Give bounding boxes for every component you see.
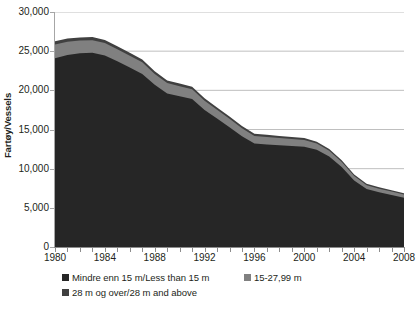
x-axis-tick-mark [167, 248, 168, 252]
legend-item-label: 28 m og over/28 m and above [72, 287, 197, 298]
legend-swatch-icon [62, 274, 69, 281]
x-axis-tick-mark [254, 248, 255, 252]
x-axis-tick-mark [329, 248, 330, 252]
y-axis-tick-label: 15,000 [3, 125, 49, 135]
y-axis-tick-mark [50, 169, 54, 170]
x-axis-tick-mark [80, 248, 81, 252]
x-axis-tick-mark [267, 248, 268, 252]
legend-item[interactable]: 28 m og over/28 m and above [62, 287, 197, 298]
x-axis-tick-mark [130, 248, 131, 252]
y-axis-tick-mark [50, 208, 54, 209]
x-axis-tick-mark [392, 248, 393, 252]
x-axis-tick-mark [142, 248, 143, 252]
x-axis-tick-mark [279, 248, 280, 252]
x-axis-tick-mark [317, 248, 318, 252]
legend-swatch-icon [244, 274, 251, 281]
x-axis-tick-label: 1984 [85, 252, 125, 264]
x-axis-tick-mark [230, 248, 231, 252]
x-axis-tick-mark [292, 248, 293, 252]
legend-swatch-icon [62, 289, 69, 296]
plot-area [55, 12, 404, 247]
x-axis-tick-mark [367, 248, 368, 252]
y-axis-tick-mark [50, 51, 54, 52]
x-axis-tick-label: 1992 [185, 252, 225, 264]
y-axis-tick-mark [50, 90, 54, 91]
x-axis-tick-mark [354, 248, 355, 252]
y-axis-tick-label: 10,000 [3, 164, 49, 174]
x-axis-tick-mark [180, 248, 181, 252]
x-axis-tick-mark [342, 248, 343, 252]
x-axis-tick-mark [379, 248, 380, 252]
chart-legend: Mindre enn 15 m/Less than 15 m15-27,99 m… [62, 272, 412, 306]
x-axis-tick-mark [92, 248, 93, 252]
stacked-area-chart: Fartøy/Vessels 05,00010,00015,00020,0002… [0, 0, 417, 309]
x-axis-tick-mark [404, 248, 405, 252]
x-axis-tick-label: 1980 [35, 252, 75, 264]
x-axis-tick-label: 2008 [384, 252, 417, 264]
x-axis-tick-mark [192, 248, 193, 252]
area-series [55, 53, 404, 247]
y-axis-tick-label: 0 [3, 242, 49, 252]
y-axis-tick-label: 30,000 [3, 7, 49, 17]
x-axis-tick-mark [205, 248, 206, 252]
x-axis-tick-mark [242, 248, 243, 252]
x-axis-tick-mark [105, 248, 106, 252]
y-axis-tick-label: 25,000 [3, 46, 49, 56]
legend-item[interactable]: Mindre enn 15 m/Less than 15 m [62, 272, 209, 283]
x-axis-tick-mark [217, 248, 218, 252]
x-axis-tick-mark [67, 248, 68, 252]
x-axis-tick-label: 1988 [135, 252, 175, 264]
x-axis-tick-mark [304, 248, 305, 252]
y-axis-tick-label: 5,000 [3, 203, 49, 213]
x-axis-tick-mark [55, 248, 56, 252]
x-axis-tick-labels: 19801984198819921996200020042008 [0, 252, 417, 266]
x-axis-tick-label: 1996 [234, 252, 274, 264]
x-axis-tick-label: 2004 [334, 252, 374, 264]
x-axis-tick-label: 2000 [284, 252, 324, 264]
plot-svg [55, 12, 404, 247]
legend-item[interactable]: 15-27,99 m [244, 272, 302, 283]
x-axis-tick-mark [155, 248, 156, 252]
legend-item-label: Mindre enn 15 m/Less than 15 m [72, 272, 209, 283]
y-axis-tick-mark [50, 130, 54, 131]
legend-item-label: 15-27,99 m [254, 272, 302, 283]
y-axis-tick-mark [50, 247, 54, 248]
x-axis-tick-mark [117, 248, 118, 252]
y-axis-tick-label: 20,000 [3, 85, 49, 95]
y-axis-tick-mark [50, 12, 54, 13]
area-series-group [55, 37, 404, 247]
